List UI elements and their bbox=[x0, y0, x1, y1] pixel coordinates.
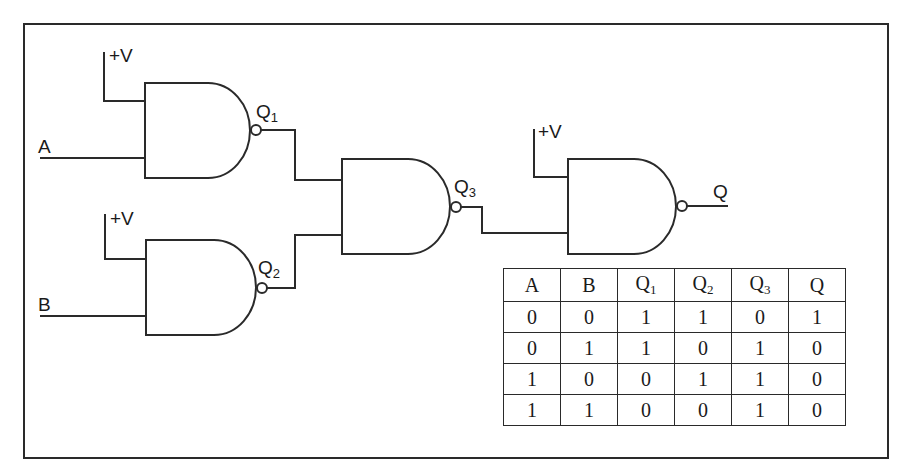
table-cell: 0 bbox=[618, 364, 675, 395]
table-cell: 1 bbox=[561, 395, 618, 426]
input-label-a: A bbox=[38, 137, 51, 156]
output-label-q: Q bbox=[713, 182, 728, 201]
nand-gate-4 bbox=[568, 159, 676, 254]
inversion-bubble-1 bbox=[251, 125, 261, 135]
inversion-bubble-2 bbox=[257, 283, 267, 293]
table-cell: 1 bbox=[789, 302, 846, 333]
table-cell: 0 bbox=[504, 333, 561, 364]
table-cell: 1 bbox=[732, 395, 789, 426]
table-cell: 1 bbox=[732, 333, 789, 364]
output-label-q3: Q3 bbox=[454, 177, 476, 199]
table-cell: 1 bbox=[732, 364, 789, 395]
nand-gate-3 bbox=[342, 159, 450, 254]
table-row: 0 1 1 0 1 0 bbox=[504, 333, 846, 364]
table-cell: 1 bbox=[675, 364, 732, 395]
header-a: A bbox=[504, 269, 561, 302]
table-row: 1 0 0 1 1 0 bbox=[504, 364, 846, 395]
header-q2: Q2 bbox=[675, 269, 732, 302]
header-q1: Q1 bbox=[618, 269, 675, 302]
table-cell: 0 bbox=[732, 302, 789, 333]
supply-label-4: +V bbox=[538, 122, 562, 141]
table-row: 0 0 1 1 0 1 bbox=[504, 302, 846, 333]
table-cell: 1 bbox=[675, 302, 732, 333]
table-cell: 0 bbox=[789, 364, 846, 395]
nand-gate-1 bbox=[145, 83, 250, 178]
truth-table-header: A B Q1 Q2 Q3 Q bbox=[504, 269, 846, 302]
output-label-q2: Q2 bbox=[258, 258, 280, 280]
header-q3: Q3 bbox=[732, 269, 789, 302]
table-cell: 1 bbox=[504, 395, 561, 426]
table-cell: 0 bbox=[789, 395, 846, 426]
table-cell: 0 bbox=[504, 302, 561, 333]
table-cell: 0 bbox=[675, 333, 732, 364]
table-cell: 1 bbox=[561, 333, 618, 364]
circuit-diagram: +V +V +V A B Q1 Q2 Q3 Q A B Q1 Q2 Q3 Q 0… bbox=[0, 0, 908, 474]
input-label-b: B bbox=[38, 295, 51, 314]
output-label-q1: Q1 bbox=[256, 102, 278, 124]
supply-label-2: +V bbox=[110, 209, 134, 228]
nand-gate-2 bbox=[146, 240, 256, 335]
table-cell: 1 bbox=[618, 333, 675, 364]
table-cell: 0 bbox=[618, 395, 675, 426]
table-cell: 0 bbox=[561, 364, 618, 395]
q3-wire bbox=[461, 207, 568, 233]
q1-wire bbox=[261, 130, 342, 180]
header-b: B bbox=[561, 269, 618, 302]
table-cell: 0 bbox=[561, 302, 618, 333]
truth-table: A B Q1 Q2 Q3 Q 0 0 1 1 0 1 0 1 1 0 bbox=[503, 268, 846, 426]
table-cell: 1 bbox=[618, 302, 675, 333]
header-q: Q bbox=[789, 269, 846, 302]
supply-label-1: +V bbox=[109, 46, 133, 65]
inversion-bubble-3 bbox=[451, 202, 461, 212]
table-cell: 0 bbox=[675, 395, 732, 426]
table-row: 1 1 0 0 1 0 bbox=[504, 395, 846, 426]
table-cell: 1 bbox=[504, 364, 561, 395]
inversion-bubble-4 bbox=[677, 201, 687, 211]
table-cell: 0 bbox=[789, 333, 846, 364]
